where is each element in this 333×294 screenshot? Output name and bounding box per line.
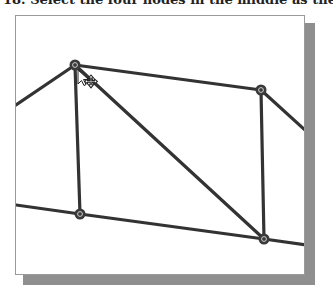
truss-element-line[interactable] [75, 65, 264, 239]
node-bottom-left[interactable] [75, 209, 86, 220]
truss-element-line[interactable] [261, 90, 264, 239]
truss-element-line[interactable] [261, 90, 306, 131]
node-top-right[interactable] [256, 85, 267, 96]
truss-element-line[interactable] [16, 65, 75, 105]
truss-element-line[interactable] [80, 214, 264, 239]
move-cursor-icon [78, 70, 97, 88]
truss-element-line[interactable] [264, 239, 306, 245]
node-bottom-right[interactable] [259, 234, 270, 245]
node-top-left[interactable] [70, 60, 81, 71]
truss-element-line[interactable] [75, 65, 80, 214]
truss-element-line[interactable] [16, 205, 80, 214]
truss-element-line[interactable] [75, 65, 261, 90]
